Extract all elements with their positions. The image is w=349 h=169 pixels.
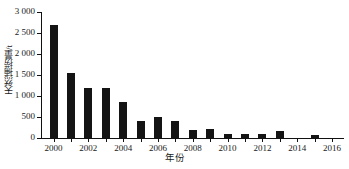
y-tick: 2 000 <box>0 54 41 55</box>
bar <box>171 121 179 138</box>
bar <box>189 130 197 138</box>
x-tick-mark <box>262 138 263 142</box>
y-tick-label: 3 000 <box>15 6 35 16</box>
y-tick: 1 000 <box>0 96 41 97</box>
x-tick-mark <box>210 138 211 142</box>
bar <box>258 134 266 138</box>
x-axis-title: 年份 <box>0 150 349 164</box>
bar <box>67 73 75 138</box>
y-tick-mark <box>37 54 41 55</box>
bar <box>276 131 284 138</box>
x-tick-mark <box>315 138 316 142</box>
y-tick-mark <box>37 117 41 118</box>
y-tick: 3 000 <box>0 12 41 13</box>
bar <box>206 129 214 138</box>
y-tick-label: 2 500 <box>15 27 35 37</box>
bar <box>241 134 249 138</box>
x-tick-mark <box>141 138 142 142</box>
x-tick-mark <box>245 138 246 142</box>
y-tick-mark <box>37 75 41 76</box>
x-tick-mark <box>193 138 194 142</box>
y-tick: 1 500 <box>0 75 41 76</box>
plot-area: 05001 0001 5002 0002 5003 000 2000200220… <box>41 12 343 138</box>
y-tick-label: 2 000 <box>15 48 35 58</box>
x-tick-mark <box>158 138 159 142</box>
x-tick-mark <box>297 138 298 142</box>
x-tick-mark <box>88 138 89 142</box>
y-tick-mark <box>37 33 41 34</box>
x-tick-mark <box>332 138 333 142</box>
y-tick: 0 <box>0 138 41 139</box>
y-axis-line <box>41 12 42 139</box>
bar <box>224 134 232 138</box>
x-tick-mark <box>123 138 124 142</box>
y-tick-mark <box>37 12 41 13</box>
bar <box>84 88 92 138</box>
x-tick-mark <box>71 138 72 142</box>
bar <box>119 102 127 138</box>
y-tick-mark <box>37 96 41 97</box>
y-tick: 500 <box>0 117 41 118</box>
x-tick-mark <box>54 138 55 142</box>
bar <box>102 88 110 138</box>
y-tick-label: 0 <box>31 132 36 142</box>
bar-chart: 天然捕捞量/t 05001 0001 5002 0002 5003 000 20… <box>0 0 349 169</box>
bar <box>311 135 319 138</box>
y-tick-label: 500 <box>22 111 36 121</box>
bar <box>50 25 58 138</box>
bar <box>154 117 162 138</box>
x-tick-mark <box>228 138 229 142</box>
y-tick-label: 1 500 <box>15 69 35 79</box>
bar <box>137 121 145 138</box>
x-tick-mark <box>175 138 176 142</box>
x-tick-mark <box>106 138 107 142</box>
y-tick-label: 1 000 <box>15 90 35 100</box>
y-tick-mark <box>37 138 41 139</box>
x-tick-mark <box>280 138 281 142</box>
y-tick: 2 500 <box>0 33 41 34</box>
